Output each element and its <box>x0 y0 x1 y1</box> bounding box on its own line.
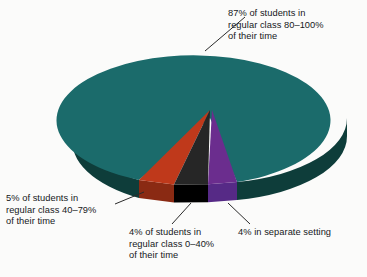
callout-label-regular-class-40-79: 5% of students in regular class 40–79% o… <box>6 193 130 228</box>
slice-side-regular-class-0-40 <box>174 184 208 202</box>
leader-line-minimal <box>172 203 191 224</box>
slice-side-separate-setting <box>208 182 237 202</box>
pie-chart-figure: 87% of students in regular class 80–100%… <box>0 0 367 277</box>
leader-line-separate <box>228 203 250 224</box>
callout-label-regular-class-0-40: 4% of students in regular class 0–40% of… <box>129 227 241 262</box>
callout-label-separate-setting: 4% in separate setting <box>238 227 364 239</box>
callout-label-regular-class-80-100: 87% of students in regular class 80–100%… <box>228 8 364 43</box>
